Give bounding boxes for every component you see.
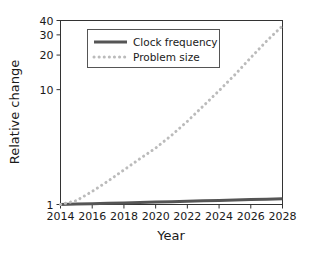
y-tick-label: 40 <box>40 15 54 28</box>
x-tick-label: 2028 <box>269 210 297 223</box>
x-tick-label: 2024 <box>205 210 233 223</box>
x-tick-label: 2026 <box>237 210 265 223</box>
y-tick-label: 30 <box>40 29 54 42</box>
x-tick-label: 2016 <box>78 210 106 223</box>
chart-figure: 20142016201820202022202420262028 1102030… <box>0 0 311 255</box>
y-tick-label: 1 <box>47 199 54 212</box>
y-tick-label: 10 <box>40 84 54 97</box>
x-tick-label: 2018 <box>110 210 138 223</box>
x-axis-title: Year <box>156 228 185 243</box>
x-tick-label: 2020 <box>142 210 170 223</box>
legend-label-clock-frequency: Clock frequency <box>133 36 218 48</box>
y-tick-label: 20 <box>40 49 54 62</box>
chart-legend: Clock frequencyProblem size <box>88 30 220 68</box>
y-axis-tick-labels: 110203040 <box>40 15 54 212</box>
x-axis-tick-labels: 20142016201820202022202420262028 <box>47 210 297 223</box>
relative-change-line-chart: 20142016201820202022202420262028 1102030… <box>0 0 311 255</box>
legend-label-problem-size: Problem size <box>133 51 200 63</box>
y-axis-title: Relative change <box>7 60 22 164</box>
y-axis-ticks <box>57 21 61 205</box>
x-tick-label: 2022 <box>173 210 201 223</box>
